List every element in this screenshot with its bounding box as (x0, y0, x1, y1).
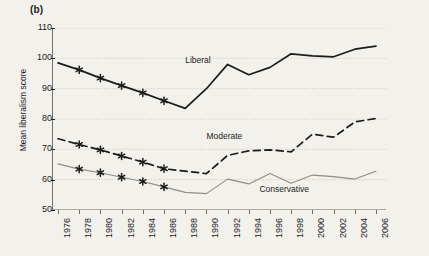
x-tick-mark (312, 210, 313, 214)
data-series-layer (52, 28, 386, 210)
x-tick-label: 1976 (62, 218, 72, 238)
x-tick-label: 1998 (295, 218, 305, 238)
series-annotation-liberal: Liberal (185, 55, 211, 65)
y-tick-mark (51, 210, 55, 211)
x-tick-label: 1994 (253, 218, 263, 238)
x-tick-mark (185, 210, 186, 214)
y-tick-label: 90 (28, 84, 52, 93)
x-tick-label: 1992 (232, 218, 242, 238)
x-tick-label: 1984 (147, 218, 157, 238)
x-tick-mark (164, 210, 165, 214)
x-tick-mark (291, 210, 292, 214)
x-tick-mark (79, 210, 80, 214)
y-tick-label: 70 (28, 144, 52, 153)
series-line-liberal (58, 46, 376, 108)
x-tick-label: 2004 (359, 218, 369, 238)
x-tick-mark (58, 210, 59, 214)
y-tick-label: 50 (28, 205, 52, 214)
x-tick-mark (355, 210, 356, 214)
x-tick-label: 1982 (126, 218, 136, 238)
x-tick-mark (143, 210, 144, 214)
y-tick-label: 100 (28, 53, 52, 62)
x-tick-mark (100, 210, 101, 214)
x-tick-mark (228, 210, 229, 214)
plot-area (52, 28, 386, 210)
x-tick-label: 2002 (338, 218, 348, 238)
x-tick-mark (122, 210, 123, 214)
x-tick-label: 1990 (210, 218, 220, 238)
x-tick-mark (249, 210, 250, 214)
series-annotation-conservative: Conservative (259, 184, 309, 194)
figure-panel-b: (b) Mean liberalism score 50607080901001… (0, 0, 429, 256)
x-axis-ticks: 1976197819801982198419861988199019921994… (52, 214, 386, 256)
y-tick-label: 60 (28, 175, 52, 184)
x-tick-label: 1986 (168, 218, 178, 238)
x-tick-mark (334, 210, 335, 214)
x-tick-label: 1978 (83, 218, 93, 238)
x-tick-mark (270, 210, 271, 214)
y-tick-label: 110 (28, 23, 52, 32)
series-line-moderate (58, 118, 376, 173)
x-tick-label: 2000 (316, 218, 326, 238)
series-annotation-moderate: Moderate (206, 131, 242, 141)
x-tick-label: 1996 (274, 218, 284, 238)
y-tick-label: 80 (28, 114, 52, 123)
x-tick-label: 1980 (104, 218, 114, 238)
x-tick-mark (206, 210, 207, 214)
x-tick-label: 1988 (189, 218, 199, 238)
series-line-conservative (58, 164, 376, 194)
x-tick-label: 2006 (380, 218, 390, 238)
y-axis-ticks: 5060708090100110 (24, 0, 52, 256)
x-tick-mark (376, 210, 377, 214)
